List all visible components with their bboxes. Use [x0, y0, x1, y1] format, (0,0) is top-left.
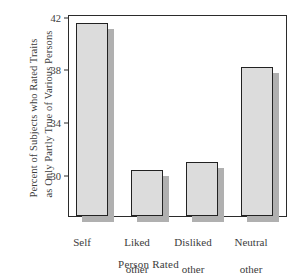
bar-disliked-other[interactable]	[186, 162, 218, 216]
bar-liked-other-face	[131, 170, 163, 216]
bar-chart-figure: Percent of Subjects who Rated Traits as …	[0, 0, 297, 279]
y-axis-title: Percent of Subjects who Rated Traits as …	[24, 11, 58, 217]
y-axis-title-line-2: as Only Partly True of Various Persons	[41, 31, 56, 198]
x-axis-title: Person Rated	[0, 258, 297, 271]
bar-neutral-other[interactable]	[241, 67, 273, 216]
bar-neutral-other-face	[241, 67, 273, 216]
bar-self[interactable]	[76, 23, 108, 216]
y-axis-title-line-1: Percent of Subjects who Rated Traits	[26, 31, 41, 198]
plot-area	[68, 15, 287, 217]
x-category-label-self-line-1: Self	[52, 236, 112, 250]
x-category-label-disliked-other-line-1: Disliked	[160, 236, 226, 250]
x-category-label-liked-other-line-1: Liked	[107, 236, 167, 250]
bar-liked-other[interactable]	[131, 170, 163, 216]
bar-self-face	[76, 23, 108, 216]
x-category-label-neutral-other-line-1: Neutral	[218, 236, 284, 250]
bar-disliked-other-face	[186, 162, 218, 216]
x-category-label-self: Self	[52, 222, 112, 263]
